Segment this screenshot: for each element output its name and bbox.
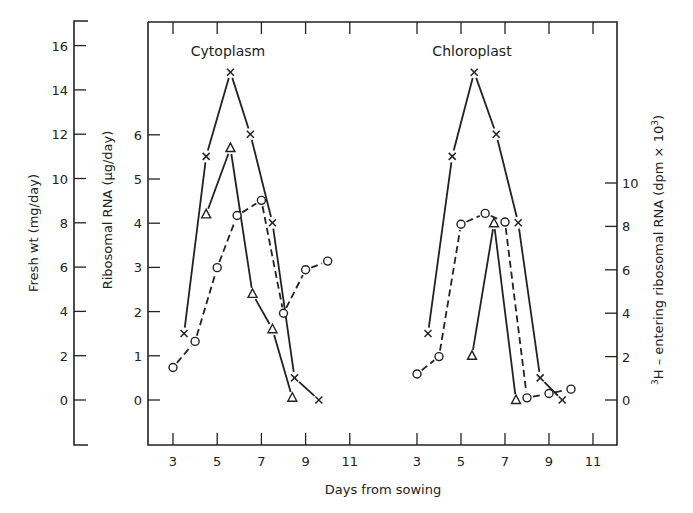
y-axis-label-fresh-wt: Fresh wt (mg/day): [26, 174, 41, 292]
main-frame: [148, 22, 617, 445]
h3-tick-label: 10: [622, 176, 639, 191]
series-segment-circle: [555, 390, 565, 392]
data-point-cross: [537, 374, 544, 381]
series-segment-cross: [519, 229, 539, 372]
y-axis-label-3h-main: H – entering ribosomal RNA (dpm × 10: [651, 126, 666, 379]
data-point-circle: [280, 309, 288, 317]
panel-title-chloroplast: Chloroplast: [432, 43, 512, 59]
y-axis-label-ribosomal-rna: Ribosomal RNA (µg/day): [100, 131, 115, 290]
data-point-triangle: [248, 289, 257, 298]
data-point-circle: [302, 266, 310, 274]
series-segment-triangle: [231, 154, 251, 288]
series-segment-circle: [242, 204, 256, 213]
series-segment-cross: [476, 78, 494, 129]
fresh-wt-tick-label: 6: [60, 260, 68, 275]
data-point-circle: [523, 394, 531, 402]
data-point-circle: [481, 209, 489, 217]
fresh-wt-tick-label: 12: [51, 127, 68, 142]
rna-tick-label: 5: [134, 172, 142, 187]
series-segment-circle: [440, 230, 460, 351]
data-point-circle: [233, 212, 241, 220]
rna-tick-label: 6: [134, 128, 142, 143]
series-segment-circle: [197, 273, 216, 335]
h3-tick-label: 8: [622, 219, 630, 234]
x-axis-label: Days from sowing: [325, 482, 441, 497]
rna-tick-label: 4: [134, 216, 142, 231]
fresh-wt-tick-label: 4: [60, 304, 68, 319]
y-axis-label-3h-close: ): [651, 115, 666, 120]
data-point-cross: [449, 153, 456, 160]
data-point-cross: [269, 219, 276, 226]
rna-tick-label: 0: [134, 393, 142, 408]
data-point-triangle: [268, 324, 277, 333]
data-point-circle: [435, 353, 443, 361]
data-point-cross: [559, 397, 566, 404]
x-tick-label: 3: [413, 454, 421, 469]
panel-title-cytoplasm: Cytoplasm: [191, 43, 265, 59]
data-point-circle: [191, 337, 199, 345]
rna-tick-label: 3: [134, 260, 142, 275]
x-tick-label: 5: [457, 454, 465, 469]
fresh-wt-tick-label: 10: [51, 172, 68, 187]
data-point-cross: [493, 131, 500, 138]
x-tick-label: 11: [585, 454, 602, 469]
fresh-wt-tick-label: 0: [60, 393, 68, 408]
series-segment-cross: [299, 382, 314, 396]
data-point-circle: [257, 196, 265, 204]
fresh-wt-tick-label: 8: [60, 216, 68, 231]
series-segment-cross: [498, 140, 517, 217]
data-point-triangle: [226, 143, 235, 152]
data-point-cross: [471, 69, 478, 76]
data-point-triangle: [512, 395, 521, 404]
data-point-cross: [247, 131, 254, 138]
series-segment-triangle: [274, 335, 291, 392]
series-segment-triangle: [208, 154, 228, 209]
data-point-cross: [315, 397, 322, 404]
chart-svg: 024681012141601234560246810357911357911 …: [0, 0, 693, 513]
series-segment-cross: [454, 78, 473, 151]
series-segment-circle: [177, 346, 191, 363]
data-point-triangle: [490, 218, 499, 227]
series-segment-cross: [273, 229, 293, 372]
data-point-triangle: [288, 393, 297, 402]
data-series: [169, 69, 575, 404]
data-point-triangle: [202, 209, 211, 218]
axis-ticks: 024681012141601234560246810357911357911: [51, 22, 638, 469]
data-point-circle: [213, 264, 221, 272]
data-point-cross: [227, 69, 234, 76]
data-point-cross: [291, 374, 298, 381]
chart-figure: 024681012141601234560246810357911357911 …: [0, 0, 693, 513]
rna-tick-label: 2: [134, 305, 142, 320]
x-tick-label: 9: [545, 454, 553, 469]
series-segment-triangle: [495, 229, 516, 394]
h3-tick-label: 4: [622, 306, 630, 321]
data-point-circle: [169, 363, 177, 371]
series-segment-triangle: [473, 229, 493, 350]
y-axis-label-3h: 3H – entering ribosomal RNA (dpm × 103): [650, 115, 666, 385]
fresh-wt-tick-label: 14: [51, 83, 68, 98]
series-segment-circle: [286, 275, 303, 308]
data-point-cross: [181, 330, 188, 337]
x-tick-label: 3: [169, 454, 177, 469]
h3-tick-label: 2: [622, 350, 630, 365]
fresh-wt-tick-label: 2: [60, 349, 68, 364]
data-point-cross: [515, 219, 522, 226]
data-point-circle: [501, 218, 509, 226]
data-point-circle: [457, 220, 465, 228]
x-tick-label: 9: [301, 454, 309, 469]
data-point-circle: [413, 370, 421, 378]
data-point-circle: [324, 257, 332, 265]
series-segment-triangle: [256, 299, 270, 324]
series-segment-cross: [185, 162, 206, 327]
x-tick-label: 11: [342, 454, 359, 469]
plot-frame: [74, 21, 617, 445]
series-segment-circle: [311, 263, 322, 267]
series-segment-cross: [208, 78, 229, 151]
data-point-triangle: [468, 351, 477, 360]
h3-tick-label: 0: [622, 393, 630, 408]
x-tick-label: 5: [213, 454, 221, 469]
series-segment-circle: [219, 221, 235, 262]
series-segment-cross: [232, 78, 248, 129]
series-segment-circle: [422, 360, 435, 370]
series-segment-circle: [533, 395, 543, 397]
